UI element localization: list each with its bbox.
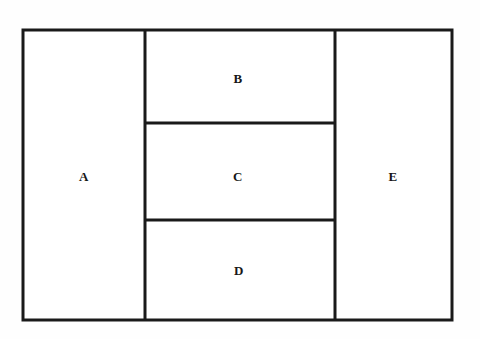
diagram-canvas: A B C D E (0, 0, 480, 339)
region-a-label: A (79, 170, 89, 183)
region-c-label: C (233, 170, 243, 183)
region-d-label: D (234, 264, 244, 277)
region-b-label: B (233, 72, 242, 85)
region-e-label: E (388, 170, 397, 183)
